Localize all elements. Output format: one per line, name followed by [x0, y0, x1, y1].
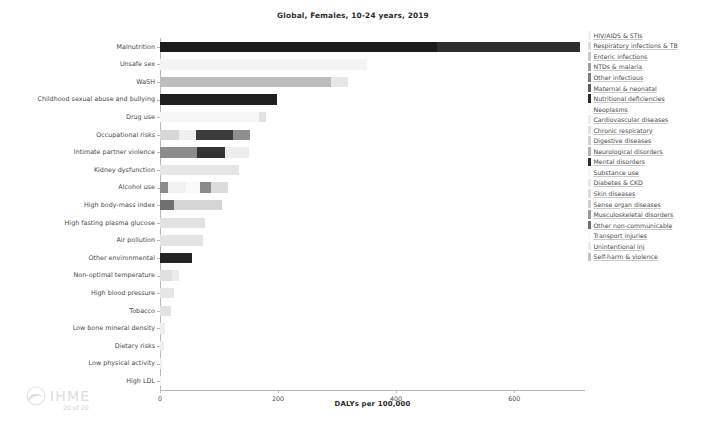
bar-segment[interactable]	[160, 323, 165, 333]
bar-segment[interactable]	[160, 59, 367, 69]
stacked-bar[interactable]	[160, 200, 222, 210]
legend-item[interactable]: Mental disorders	[588, 157, 700, 168]
legend-item[interactable]: Other infectious	[588, 72, 700, 83]
legend-item[interactable]: Sense organ diseases	[588, 199, 700, 210]
bar-segment[interactable]	[160, 341, 164, 351]
bar-segment[interactable]	[168, 182, 186, 192]
legend-item[interactable]: Unintentional inj	[588, 241, 700, 252]
bar-segment[interactable]	[160, 218, 205, 228]
bar-segment[interactable]	[160, 77, 331, 87]
bar-row[interactable]: Air pollution	[160, 232, 585, 250]
stacked-bar[interactable]	[160, 306, 171, 316]
bar-segment[interactable]	[160, 253, 192, 263]
bar-row[interactable]: Malnutrition	[160, 38, 585, 56]
legend-item[interactable]: Neoplasms	[588, 104, 700, 115]
bar-segment[interactable]	[211, 182, 229, 192]
stacked-bar[interactable]	[160, 130, 250, 140]
bar-row[interactable]: Intimate partner violence	[160, 144, 585, 162]
bar-row[interactable]: Drug use	[160, 108, 585, 126]
stacked-bar[interactable]	[160, 165, 239, 175]
legend-item[interactable]: NTDs & malaria	[588, 62, 700, 73]
bar-row[interactable]: Unsafe sex	[160, 56, 585, 74]
bar-row[interactable]: Kidney dysfunction	[160, 161, 585, 179]
stacked-bar[interactable]	[160, 182, 228, 192]
bar-row[interactable]: Low bone mineral density	[160, 320, 585, 338]
bar-segment[interactable]	[160, 288, 174, 298]
bar-segment[interactable]	[200, 182, 211, 192]
stacked-bar[interactable]	[160, 341, 164, 351]
legend-item[interactable]: Substance use	[588, 167, 700, 178]
legend-swatch	[588, 31, 591, 40]
bar-row[interactable]: High LDL	[160, 372, 585, 390]
stacked-bar[interactable]	[160, 42, 580, 52]
legend-label: Musculoskeletal disorders	[594, 211, 674, 218]
bar-segment[interactable]	[331, 77, 348, 87]
stacked-bar[interactable]	[160, 59, 367, 69]
stacked-bar[interactable]	[160, 235, 203, 245]
stacked-bar[interactable]	[160, 253, 192, 263]
bar-segment[interactable]	[186, 182, 200, 192]
legend-item[interactable]: Digestive diseases	[588, 135, 700, 146]
bar-segment[interactable]	[160, 306, 171, 316]
legend-swatch	[588, 200, 591, 209]
bar-row[interactable]: High fasting plasma glucose	[160, 214, 585, 232]
bar-segment[interactable]	[196, 130, 233, 140]
bar-segment[interactable]	[160, 42, 437, 52]
legend-item[interactable]: Enteric infections	[588, 51, 700, 62]
bar-row[interactable]: Tobacco	[160, 302, 585, 320]
bar-row[interactable]: Non-optimal temperature	[160, 267, 585, 285]
legend-item[interactable]: Neurological disorders	[588, 146, 700, 157]
legend-item[interactable]: Cardiovascular diseases	[588, 114, 700, 125]
stacked-bar[interactable]	[160, 112, 266, 122]
stacked-bar[interactable]	[160, 94, 277, 104]
stacked-bar[interactable]	[160, 358, 162, 368]
legend-item[interactable]: Transport injuries	[588, 230, 700, 241]
legend-item[interactable]: Diabetes & CKD	[588, 178, 700, 189]
legend-item[interactable]: HIV/AIDS & STIs	[588, 30, 700, 41]
legend-item[interactable]: Respiratory infections & TB	[588, 41, 700, 52]
bar-segment[interactable]	[197, 147, 225, 157]
stacked-bar[interactable]	[160, 270, 179, 280]
legend-item[interactable]: Other non-communicable	[588, 220, 700, 231]
bar-segment[interactable]	[160, 165, 239, 175]
legend-item[interactable]: Skin diseases	[588, 188, 700, 199]
bar-segment[interactable]	[160, 130, 179, 140]
bar-segment[interactable]	[172, 270, 180, 280]
bar-segment[interactable]	[160, 94, 277, 104]
stacked-bar[interactable]	[160, 288, 174, 298]
bar-segment[interactable]	[160, 112, 259, 122]
bar-row[interactable]: WaSH	[160, 73, 585, 91]
bar-row[interactable]: High body-mass index	[160, 196, 585, 214]
bar-segment[interactable]	[160, 270, 172, 280]
bar-segment[interactable]	[160, 235, 203, 245]
bar-segment[interactable]	[225, 147, 249, 157]
bar-row[interactable]: Low physical activity	[160, 355, 585, 373]
bar-row[interactable]: Alcohol use	[160, 179, 585, 197]
stacked-bar[interactable]	[160, 77, 348, 87]
bar-row[interactable]: Dietary risks	[160, 337, 585, 355]
stacked-bar[interactable]	[160, 218, 205, 228]
legend-item[interactable]: Nutritional deficiencies	[588, 93, 700, 104]
bar-segment[interactable]	[259, 112, 266, 122]
bar-row[interactable]: Other environmental	[160, 249, 585, 267]
stacked-bar[interactable]	[160, 376, 161, 386]
stacked-bar[interactable]	[160, 323, 165, 333]
bar-segment[interactable]	[179, 130, 196, 140]
bar-row[interactable]: Childhood sexual abuse and bullying	[160, 91, 585, 109]
bar-row[interactable]: Occupational risks	[160, 126, 585, 144]
bar-segment[interactable]	[233, 130, 251, 140]
legend-item[interactable]: Musculoskeletal disorders	[588, 209, 700, 220]
legend-item[interactable]: Self-harm & violence	[588, 251, 700, 262]
bar-segment[interactable]	[160, 358, 162, 368]
bar-segment[interactable]	[174, 200, 222, 210]
bar-row[interactable]: High blood pressure	[160, 284, 585, 302]
x-axis-tick	[160, 390, 161, 393]
bar-segment[interactable]	[437, 42, 580, 52]
bar-segment[interactable]	[160, 147, 197, 157]
legend-item[interactable]: Chronic respiratory	[588, 125, 700, 136]
stacked-bar[interactable]	[160, 147, 249, 157]
bar-segment[interactable]	[160, 376, 161, 386]
bar-segment[interactable]	[160, 200, 174, 210]
legend-item[interactable]: Maternal & neonatal	[588, 83, 700, 94]
bar-segment[interactable]	[160, 182, 168, 192]
